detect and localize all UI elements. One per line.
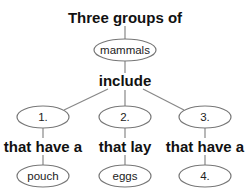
feature-label-2: eggs [113, 170, 138, 182]
connector-line [64, 89, 108, 110]
root-label: mammals [100, 44, 150, 56]
relation-label-3: that have a [166, 138, 245, 155]
connector-label: include [99, 72, 152, 89]
relation-label-2: that lay [99, 138, 152, 155]
connector-line [143, 89, 184, 110]
concept-map: Three groups of mammals include 1. that … [0, 0, 246, 195]
diagram-title: Three groups of [68, 9, 183, 26]
group-label-1: 1. [38, 111, 48, 123]
group-label-3: 3. [200, 111, 210, 123]
relation-label-1: that have a [4, 138, 83, 155]
group-label-2: 2. [120, 111, 130, 123]
feature-label-1: pouch [27, 170, 58, 182]
feature-label-3: 4. [200, 170, 210, 182]
